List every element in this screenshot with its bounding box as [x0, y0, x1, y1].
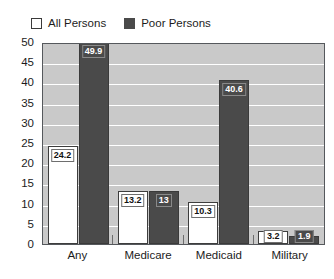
bar-medicaid-poor-persons[interactable]: 40.6: [219, 80, 249, 244]
bar-group-medicare: 13.213: [113, 44, 183, 244]
bar-medicaid-all-persons[interactable]: 10.3: [188, 202, 218, 244]
bar-value-label: 49.9: [82, 45, 106, 58]
bar-value-label: 24.2: [51, 149, 75, 162]
bar-value-label: 40.6: [222, 83, 246, 96]
bar-group-military: 3.21.9: [254, 44, 324, 244]
x-axis: AnyMedicareMedicaidMilitary: [42, 250, 325, 262]
bar-group-any: 24.249.9: [43, 44, 113, 244]
x-axis-label-military: Military: [254, 250, 325, 262]
bar-groups: 24.249.913.21310.340.63.21.9: [43, 44, 324, 244]
y-axis-tick-label: 50: [0, 37, 38, 49]
bar-military-all-persons[interactable]: 3.2: [258, 231, 288, 244]
chart-legend: All Persons Poor Persons: [31, 18, 211, 30]
y-axis-tick-label: 15: [0, 179, 38, 191]
y-axis-tick-label: 10: [0, 199, 38, 211]
legend-label-poor-persons: Poor Persons: [141, 18, 211, 30]
bar-military-poor-persons[interactable]: 1.9: [289, 236, 319, 244]
plot-area: 24.249.913.21310.340.63.21.9: [42, 43, 325, 245]
y-axis-tick-label: 20: [0, 158, 38, 170]
bar-group-medicaid: 10.340.6: [184, 44, 254, 244]
y-axis-tick-label: 5: [0, 219, 38, 231]
white-square-icon: [31, 18, 42, 29]
x-axis-label-medicaid: Medicaid: [184, 250, 255, 262]
y-axis: 50454035302520151050: [0, 43, 38, 245]
bar-value-label: 1.9: [295, 230, 314, 243]
bar-value-label: 3.2: [264, 230, 283, 243]
y-axis-tick-label: 25: [0, 138, 38, 150]
bar-any-poor-persons[interactable]: 49.9: [79, 43, 109, 244]
legend-item-all-persons: All Persons: [31, 18, 106, 30]
legend-item-poor-persons: Poor Persons: [124, 18, 211, 30]
y-axis-tick-label: 35: [0, 98, 38, 110]
bar-value-label: 10.3: [191, 205, 215, 218]
y-axis-tick-label: 30: [0, 118, 38, 130]
bar-value-label: 13: [156, 194, 172, 207]
bar-medicare-all-persons[interactable]: 13.2: [118, 191, 148, 244]
y-axis-tick-label: 0: [0, 239, 38, 251]
bar-any-all-persons[interactable]: 24.2: [48, 146, 78, 244]
x-axis-label-medicare: Medicare: [113, 250, 184, 262]
bar-medicare-poor-persons[interactable]: 13: [149, 191, 179, 244]
bar-value-label: 13.2: [121, 194, 145, 207]
y-axis-tick-label: 45: [0, 57, 38, 69]
y-axis-tick-label: 40: [0, 78, 38, 90]
legend-label-all-persons: All Persons: [48, 18, 106, 30]
x-axis-label-any: Any: [42, 250, 113, 262]
dark-square-icon: [124, 18, 135, 29]
